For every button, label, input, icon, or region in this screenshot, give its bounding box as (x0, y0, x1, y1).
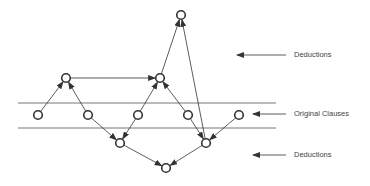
nodes (34, 11, 244, 173)
node-c1 (34, 111, 43, 120)
node-c2 (84, 111, 93, 120)
node-l2 (202, 139, 211, 148)
label-original-clauses: Original Clauses (294, 110, 349, 118)
label-upper-deductions: Deductions (294, 51, 332, 59)
edge-c3-to-l1 (123, 119, 136, 139)
node-top (177, 11, 186, 20)
edge-c2-to-u1 (69, 82, 86, 111)
label-lower-deductions: Deductions (294, 151, 332, 159)
node-u2 (156, 74, 165, 83)
edge-c3-to-u2 (140, 82, 157, 111)
edge-c4-to-u2 (163, 82, 185, 112)
edge-c1-to-u1 (41, 82, 63, 112)
edge-l1-to-bottom (124, 145, 162, 166)
edge-c4-to-l2 (190, 119, 203, 139)
node-c5 (235, 111, 244, 120)
edge-l2-to-bottom (170, 145, 202, 165)
node-u1 (62, 74, 71, 83)
edge-l2-to-top (182, 20, 205, 139)
edge-c5-to-l2 (210, 118, 236, 140)
label-arrows (237, 55, 286, 155)
edge-c2-to-l1 (91, 118, 116, 140)
node-bottom (162, 164, 171, 173)
edge-u2-to-top (161, 20, 179, 74)
node-c4 (184, 111, 193, 120)
node-l1 (116, 139, 125, 148)
node-c3 (134, 111, 143, 120)
